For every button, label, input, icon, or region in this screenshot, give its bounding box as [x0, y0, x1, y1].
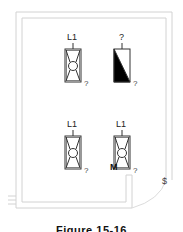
floor-plan: [0, 0, 183, 232]
corner-label-top-right: ?: [133, 80, 137, 88]
corner-label-bottom-left: ?: [84, 167, 88, 175]
figure-caption: Figure 15-16: [0, 224, 183, 232]
fixture-bottom-left: [65, 130, 81, 169]
circuit-label-top-right: ?: [119, 33, 124, 42]
switch-symbol: $: [162, 177, 167, 186]
circuit-label-top-left: L1: [67, 33, 77, 42]
fixture-top-right: [114, 43, 130, 82]
walls: [8, 12, 172, 208]
circuit-label-bottom-right: L1: [116, 120, 126, 129]
corner-label-bottom-right: ?: [133, 167, 137, 175]
fixture-top-left: [65, 43, 81, 82]
circuit-label-bottom-left: L1: [67, 120, 77, 129]
corner-label-top-left: ?: [84, 80, 88, 88]
motion-marker: M: [110, 163, 118, 172]
